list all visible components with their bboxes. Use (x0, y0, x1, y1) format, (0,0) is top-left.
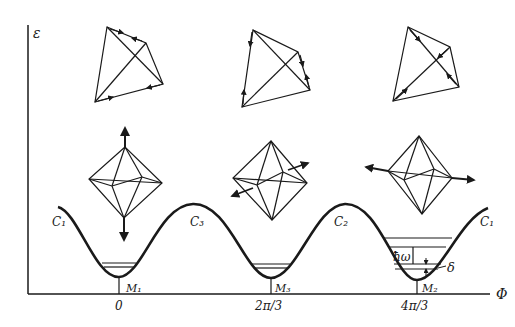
curve-label-c2: C₂ (334, 215, 348, 229)
axes (28, 25, 490, 294)
tick-label-4pi-3: 4π/3 (400, 299, 429, 313)
minimum-label-M2: M₂ (421, 282, 438, 295)
delta-label: δ (447, 260, 455, 275)
tetrahedron-1 (95, 27, 163, 102)
levels-well-3 (252, 264, 290, 268)
octahedron-1 (89, 128, 162, 240)
hbar-omega-label: ħω (393, 250, 411, 264)
tick-label-2pi-3: 2π/3 (254, 299, 283, 313)
y-axis-label: ε (33, 25, 41, 41)
minimum-label-M3: M₃ (274, 282, 291, 295)
tetrahedron-3 (393, 27, 459, 101)
curve-label-c1-left: C₁ (52, 215, 66, 229)
tick-label-0: 0 (115, 299, 123, 313)
x-axis-label: Φ (496, 286, 507, 302)
curve-label-c1-right: C₁ (480, 215, 494, 229)
octahedron-2 (232, 141, 308, 220)
minimum-label-M1: M₁ (125, 282, 142, 295)
tetrahedron-2 (242, 30, 310, 107)
octahedron-3 (366, 136, 474, 214)
potential-energy-diagram: ε Φ ħω δ M₁ M₃ M₂ 0 2π/3 4π/3 C₁ C₃ C₂ C… (0, 0, 515, 327)
curve-label-c3: C₃ (190, 215, 204, 229)
levels-well-1 (102, 263, 136, 267)
